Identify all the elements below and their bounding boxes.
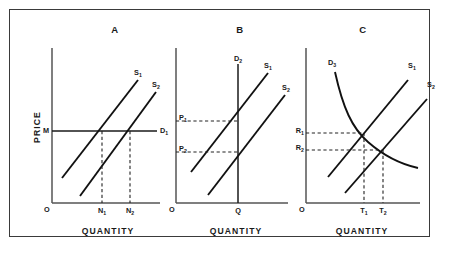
panel-b-price-mark-p2: P2 [179, 144, 187, 154]
diagram-vector-layer [0, 0, 450, 256]
panel-label-b: B [236, 24, 243, 35]
panel-a-curve-label-s2: S2 [152, 80, 160, 90]
panel-b-supply-curve-s2 [208, 95, 285, 195]
panel-c-quantity-mark-t2: T2 [379, 206, 386, 216]
panel-b-x-axis-title: QUANTITY [210, 226, 263, 236]
panel-a-supply-curve-s2 [80, 92, 156, 196]
panel-a-group [52, 48, 160, 203]
panel-label-c: C [359, 24, 366, 35]
panel-c-curve-label-s1: S1 [408, 61, 416, 71]
panel-a-supply-curve-s1 [62, 80, 138, 178]
panel-a-origin-label: O [44, 205, 50, 214]
panel-b-curve-label-s2: S2 [282, 83, 290, 93]
panel-c-curve-label-s2: S2 [427, 80, 435, 90]
panel-b-origin-label: O [169, 205, 175, 214]
figure-canvas: A B C PRICE QUANTITY QUANTITY QUANTITY M… [0, 0, 450, 256]
panel-c-price-mark-r1: R1 [296, 126, 304, 136]
panel-a-quantity-mark-n1: N1 [98, 206, 106, 216]
panel-a-price-mark-m: M [43, 126, 49, 135]
panel-b-supply-curve-s1 [191, 73, 268, 172]
panel-c-x-axis-title: QUANTITY [336, 226, 389, 236]
panel-c-price-mark-r2: R2 [296, 143, 304, 153]
panel-a-x-axis-title: QUANTITY [82, 226, 135, 236]
panel-a-curve-label-s1: S1 [134, 68, 142, 78]
panel-a-curve-label-d1: D1 [160, 126, 168, 136]
panel-c-supply-curve-s2 [345, 99, 427, 193]
panel-a-quantity-mark-n2: N2 [126, 206, 134, 216]
panel-label-a: A [111, 24, 118, 35]
panel-c-quantity-mark-t1: T1 [360, 206, 367, 216]
panel-b-curve-label-s1: S1 [264, 61, 272, 71]
panel-c-curve-label-d3: D3 [328, 58, 336, 68]
panel-c-origin-label: O [299, 205, 305, 214]
y-axis-title: PRICE [32, 111, 42, 143]
panel-b-quantity-mark-q: Q [235, 206, 241, 215]
panel-b-curve-label-d2: D2 [234, 54, 242, 64]
panel-b-price-mark-p1: P1 [179, 113, 187, 123]
